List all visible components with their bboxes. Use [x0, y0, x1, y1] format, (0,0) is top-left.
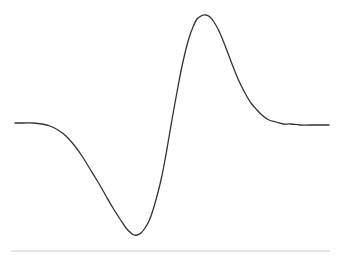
plot-canvas [0, 0, 341, 261]
figure-root [0, 0, 341, 261]
